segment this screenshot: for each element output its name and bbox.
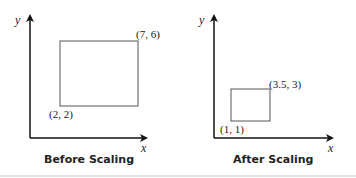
before-scaling-panel: y x (7, 6) (2, 2) Before Scaling	[14, 13, 160, 166]
bottom-left-label: (2, 2)	[49, 108, 73, 121]
top-right-label: (7, 6)	[136, 28, 160, 41]
scaling-diagram: y x (7, 6) (2, 2) Before Scaling y x (3.…	[0, 0, 356, 178]
caption: Before Scaling	[44, 153, 134, 166]
x-axis-label: x	[140, 141, 147, 155]
y-axis-label: y	[198, 13, 205, 27]
top-right-label: (3.5, 3)	[269, 78, 301, 91]
caption: After Scaling	[233, 153, 313, 166]
bottom-left-label: (1, 1)	[220, 123, 244, 136]
y-axis-label: y	[14, 13, 21, 27]
scaled-rectangle	[231, 89, 270, 121]
original-rectangle	[60, 41, 138, 106]
after-scaling-panel: y x (3.5, 3) (1, 1) After Scaling	[198, 13, 334, 166]
x-axis-label: x	[327, 141, 334, 155]
